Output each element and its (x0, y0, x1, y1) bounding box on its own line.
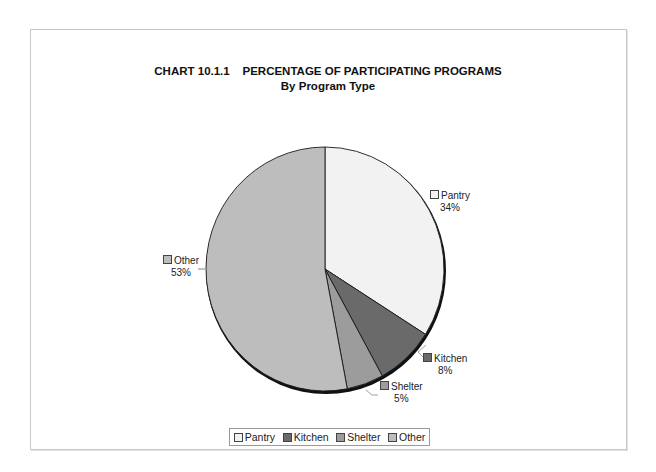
data-label-shelter: Shelter 5% (380, 381, 423, 405)
label-percent: 34% (440, 202, 460, 213)
legend-label: Kitchen (294, 431, 329, 443)
label-name: Shelter (391, 381, 423, 392)
legend-item-other: Other (388, 431, 425, 443)
label-percent: 5% (394, 393, 408, 404)
kitchen-swatch-icon (283, 433, 292, 442)
label-name: Other (174, 255, 199, 266)
label-name: Pantry (441, 190, 470, 201)
legend-label: Pantry (245, 431, 275, 443)
pie-slices (206, 147, 444, 391)
legend-label: Other (399, 431, 425, 443)
label-name: Kitchen (434, 353, 467, 364)
shelter-swatch-icon (380, 381, 389, 390)
data-label-kitchen: Kitchen 8% (423, 353, 467, 377)
label-percent: 8% (438, 365, 452, 376)
shelter-swatch-icon (336, 433, 345, 442)
pie-chart (0, 0, 656, 472)
legend-item-pantry: Pantry (234, 431, 275, 443)
other-swatch-icon (388, 433, 397, 442)
data-label-other: Other 53% (163, 255, 199, 279)
legend-item-kitchen: Kitchen (283, 431, 329, 443)
label-percent: 53% (171, 267, 191, 278)
chart-legend: Pantry Kitchen Shelter Other (229, 428, 430, 446)
data-label-pantry: Pantry 34% (430, 190, 470, 214)
legend-label: Shelter (347, 431, 380, 443)
legend-item-shelter: Shelter (336, 431, 380, 443)
pantry-swatch-icon (234, 433, 243, 442)
pantry-swatch-icon (430, 190, 439, 199)
other-swatch-icon (163, 255, 172, 264)
kitchen-swatch-icon (423, 353, 432, 362)
